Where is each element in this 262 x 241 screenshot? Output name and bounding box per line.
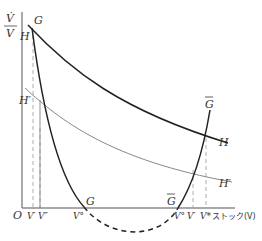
x-tick-v2: V″ [38, 211, 48, 221]
g-label-top: G [34, 14, 43, 27]
x-tick-v6: V* [200, 211, 211, 221]
h-prime-label-right: H′ [218, 177, 232, 190]
y-axis-label-denominator: V [6, 27, 15, 40]
h-curve [28, 25, 228, 143]
x-tick-v1: V′ [27, 211, 36, 221]
dashed-guides [33, 35, 206, 208]
diagram-canvas: V̇ V G H H′ H H′ G G G O V′ V″ V° V° V′ … [0, 0, 262, 241]
h-label-right: H [218, 136, 229, 149]
x-tick-v4: V° [174, 211, 185, 221]
axes [22, 12, 235, 208]
g-bar-label-top: G [205, 98, 214, 111]
h-prime-label-left: H′ [18, 94, 32, 107]
x-axis-label: ストック(V) [212, 212, 256, 221]
h-prime-curve [25, 88, 232, 182]
g-label-bottom: G [86, 195, 95, 208]
h-label-left: H [19, 30, 30, 43]
g-bar-label-bottom: G [167, 195, 176, 208]
g-curve-dashed [84, 207, 178, 232]
x-tick-v3: V° [73, 211, 84, 221]
origin-label: O [13, 209, 22, 222]
x-tick-v5: V′ [187, 211, 196, 221]
y-axis-label-numerator: V̇ [6, 12, 15, 25]
g-bar-curve-right [178, 110, 210, 208]
